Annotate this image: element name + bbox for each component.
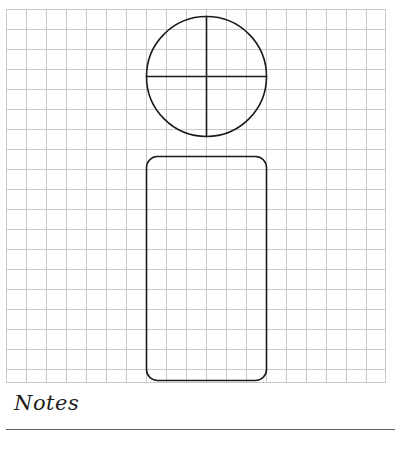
notes-rule-line [6,429,395,430]
grid-lines [6,9,386,383]
grid-bottom-edge-line [6,382,386,383]
notes-label: Notes [14,388,79,418]
grid-right-edge-line [385,9,386,383]
graph-paper-grid [6,9,386,383]
worksheet-page: Notes [0,0,407,452]
notes-section: Notes [0,386,407,452]
